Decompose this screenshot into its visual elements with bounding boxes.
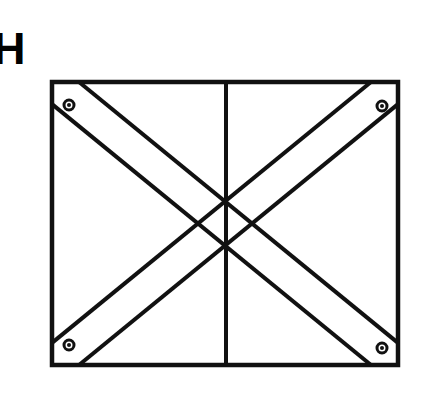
figure-container: H xyxy=(0,0,431,414)
brace-descending-upper-rail xyxy=(79,82,398,343)
brace-descending-lower-rail xyxy=(52,104,371,365)
rivet-bottom-left xyxy=(64,340,74,350)
panel-drawing xyxy=(0,0,431,414)
rivet-top-left xyxy=(64,100,74,110)
rivet-bottom-right xyxy=(377,343,387,353)
rivet-top-right xyxy=(377,101,387,111)
brace-ascending-upper-rail xyxy=(52,82,371,343)
brace-ascending-lower-rail xyxy=(79,104,398,365)
